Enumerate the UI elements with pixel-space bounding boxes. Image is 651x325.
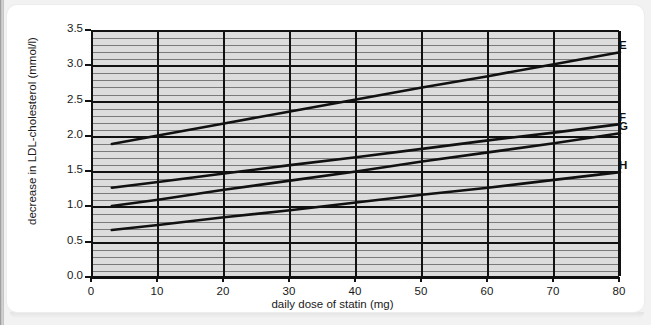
- y-tick-label: 0.5: [43, 234, 83, 246]
- series-label-e: E: [619, 39, 627, 51]
- x-tick-label: 80: [599, 285, 639, 297]
- y-tick-label: 0.0: [43, 269, 83, 281]
- series-line-f: [112, 124, 620, 188]
- series-lines: [92, 31, 620, 278]
- series-label-g: G: [619, 120, 628, 132]
- y-tick-label: 1.0: [43, 198, 83, 210]
- x-tick-label: 20: [203, 285, 243, 297]
- page-root: decrease in LDL-cholesterol (mmol/l) 0.0…: [0, 0, 651, 325]
- series-line-g: [112, 133, 620, 206]
- x-tick-label: 40: [335, 285, 375, 297]
- x-tick-label: 0: [71, 285, 111, 297]
- x-tick-label: 10: [137, 285, 177, 297]
- series-line-h: [112, 172, 620, 230]
- series-label-h: H: [619, 159, 627, 171]
- plot-area: [91, 30, 619, 277]
- y-tick-label: 3.0: [43, 57, 83, 69]
- x-tick-label: 50: [401, 285, 441, 297]
- figure-card: decrease in LDL-cholesterol (mmol/l) 0.0…: [7, 5, 644, 312]
- x-tick-label: 60: [467, 285, 507, 297]
- y-axis-label: decrease in LDL-cholesterol (mmol/l): [26, 31, 38, 231]
- y-tick-label: 1.5: [43, 163, 83, 175]
- series-line-e: [112, 52, 620, 144]
- x-tick-label: 70: [533, 285, 573, 297]
- x-axis-label: daily dose of statin (mg): [7, 298, 651, 310]
- x-tick-label: 30: [269, 285, 309, 297]
- y-tick-label: 2.0: [43, 128, 83, 140]
- card-bottom-shadow: [10, 312, 644, 319]
- page-edge-left: [0, 0, 4, 325]
- y-tick-label: 2.5: [43, 93, 83, 105]
- y-tick-label: 3.5: [43, 22, 83, 34]
